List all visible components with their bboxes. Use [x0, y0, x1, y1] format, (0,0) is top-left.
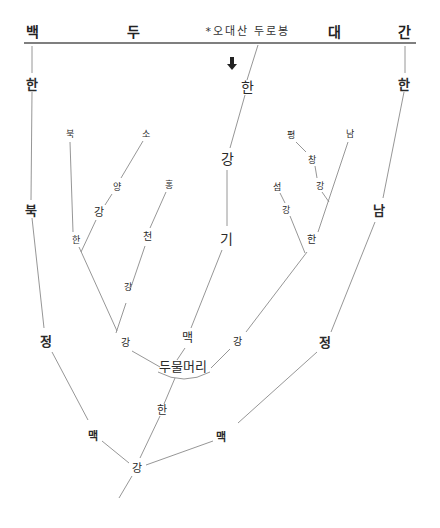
- right-col-nam: 남: [373, 204, 385, 217]
- header-char-du: 두: [127, 25, 140, 39]
- soyang-yang: 양: [113, 183, 121, 192]
- bukhan-han: 한: [72, 236, 80, 245]
- right-col-han: 한: [398, 78, 410, 91]
- left-col-han: 한: [26, 78, 38, 91]
- left-col-jeong: 정: [40, 335, 52, 348]
- namhan-han: 한: [307, 235, 316, 245]
- hongcheon-gang: 강: [124, 283, 132, 292]
- soyang-so: 소: [142, 130, 150, 139]
- central-gi: 기: [220, 232, 233, 246]
- peak-label-odaesan-duro: *오대산 두로봉: [206, 26, 291, 37]
- namhan-nam: 남: [346, 130, 354, 139]
- hongcheon-cheon: 천: [143, 232, 152, 242]
- seom-seom: 섬: [273, 183, 281, 192]
- pyeongchang-chang: 창: [308, 156, 316, 165]
- down-arrow-icon: [227, 57, 237, 71]
- left-gang: 강: [121, 338, 130, 348]
- confluence-dumulmeori: 두물머리: [159, 360, 207, 373]
- central-han: 한: [241, 80, 254, 94]
- header-char-gan: 간: [398, 25, 411, 39]
- right-col-jeong: 정: [319, 336, 331, 349]
- left-maek: 맥: [88, 431, 98, 442]
- hongcheon-hong: 홍: [165, 181, 173, 190]
- header-char-baek: 백: [26, 25, 39, 39]
- central-maek: 맥: [182, 332, 193, 344]
- pyeongchang-gang: 강: [316, 182, 324, 191]
- left-col-buk: 북: [25, 204, 37, 217]
- pyeongchang-pyeong: 평: [287, 131, 295, 140]
- soyang-gang: 강: [94, 207, 104, 218]
- below-confluence-han: 한: [157, 405, 167, 416]
- bottom-gang: 강: [132, 463, 142, 474]
- seom-gang: 강: [282, 206, 290, 215]
- bukhan-buk: 북: [66, 130, 74, 139]
- right-gang: 강: [233, 337, 242, 347]
- header-char-dae: 대: [328, 25, 341, 39]
- central-gang: 강: [221, 152, 234, 166]
- right-maek: 맥: [216, 432, 226, 443]
- river-diagram-lines: [0, 0, 440, 528]
